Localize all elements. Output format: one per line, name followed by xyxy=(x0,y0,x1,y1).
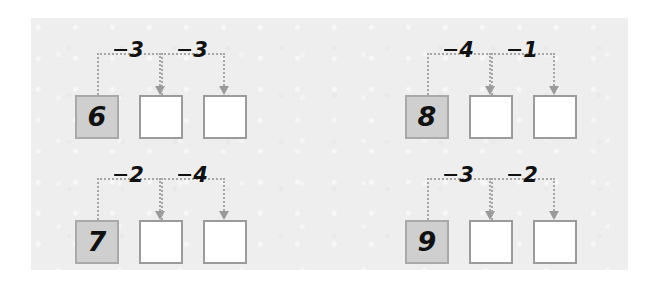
problem-3: 2 4 7 xyxy=(75,160,307,264)
connector-riser xyxy=(491,53,493,95)
minus-sign-icon xyxy=(114,49,127,52)
problem-1: 3 3 6 xyxy=(75,35,307,139)
connector-2-step-1: 4 xyxy=(427,53,491,95)
answer-box-1-2[interactable] xyxy=(203,95,247,139)
answer-box-1-1[interactable] xyxy=(139,95,183,139)
answer-box-3-1[interactable] xyxy=(139,220,183,264)
connector-drop xyxy=(223,178,225,211)
answer-box-4-2[interactable] xyxy=(533,220,577,264)
connector-drop xyxy=(553,53,555,86)
minus-sign-icon xyxy=(114,174,127,177)
answer-box-2-1[interactable] xyxy=(469,95,513,139)
answer-box-4-1[interactable] xyxy=(469,220,513,264)
connector-drop xyxy=(223,53,225,86)
operand-value: 4 xyxy=(459,38,474,62)
connector-4-step-2: 2 xyxy=(491,178,555,220)
minus-sign-icon xyxy=(508,49,521,52)
connector-riser xyxy=(161,53,163,95)
connector-riser xyxy=(97,53,99,95)
start-box-1: 6 xyxy=(75,95,119,139)
box-row: 6 xyxy=(75,95,247,139)
arrowhead-icon xyxy=(219,86,229,95)
start-value: 9 xyxy=(418,228,437,255)
minus-sign-icon xyxy=(508,174,521,177)
connector-1-step-2: 3 xyxy=(161,53,225,95)
operation-label-3-2: 4 xyxy=(175,165,211,186)
operation-label-1-1: 3 xyxy=(111,40,147,61)
minus-sign-icon xyxy=(444,174,457,177)
connector-3-step-2: 4 xyxy=(161,178,225,220)
answer-box-3-2[interactable] xyxy=(203,220,247,264)
start-value: 7 xyxy=(88,228,107,255)
operand-value: 4 xyxy=(193,163,208,187)
minus-sign-icon xyxy=(444,49,457,52)
box-row: 8 xyxy=(405,95,577,139)
operation-label-3-1: 2 xyxy=(111,165,147,186)
worksheet-paper: 3 3 6 4 xyxy=(31,18,628,270)
connector-1-step-1: 3 xyxy=(97,53,161,95)
connector-riser xyxy=(97,178,99,220)
problem-4: 3 2 9 xyxy=(405,160,637,264)
box-row: 9 xyxy=(405,220,577,264)
start-value: 8 xyxy=(418,103,437,130)
problem-2: 4 1 8 xyxy=(405,35,637,139)
operation-label-2-1: 4 xyxy=(441,40,477,61)
connector-3-step-1: 2 xyxy=(97,178,161,220)
operand-value: 3 xyxy=(193,38,208,62)
operand-value: 3 xyxy=(459,163,474,187)
operand-value: 1 xyxy=(523,38,538,62)
start-box-3: 7 xyxy=(75,220,119,264)
operation-label-4-1: 3 xyxy=(441,165,477,186)
minus-sign-icon xyxy=(178,174,191,177)
start-box-2: 8 xyxy=(405,95,449,139)
connector-4-step-1: 3 xyxy=(427,178,491,220)
operand-value: 2 xyxy=(523,163,538,187)
connector-riser xyxy=(427,178,429,220)
connector-drop xyxy=(553,178,555,211)
connector-riser xyxy=(161,178,163,220)
answer-box-2-2[interactable] xyxy=(533,95,577,139)
start-value: 6 xyxy=(88,103,107,130)
connector-riser xyxy=(427,53,429,95)
operation-label-2-2: 1 xyxy=(505,40,541,61)
minus-sign-icon xyxy=(178,49,191,52)
problem-grid: 3 3 6 4 xyxy=(31,18,628,270)
operand-value: 3 xyxy=(129,38,144,62)
arrowhead-icon xyxy=(219,211,229,220)
arrowhead-icon xyxy=(549,211,559,220)
start-box-4: 9 xyxy=(405,220,449,264)
operand-value: 2 xyxy=(129,163,144,187)
box-row: 7 xyxy=(75,220,247,264)
operation-label-1-2: 3 xyxy=(175,40,211,61)
arrowhead-icon xyxy=(549,86,559,95)
operation-label-4-2: 2 xyxy=(505,165,541,186)
connector-riser xyxy=(491,178,493,220)
connector-2-step-2: 1 xyxy=(491,53,555,95)
